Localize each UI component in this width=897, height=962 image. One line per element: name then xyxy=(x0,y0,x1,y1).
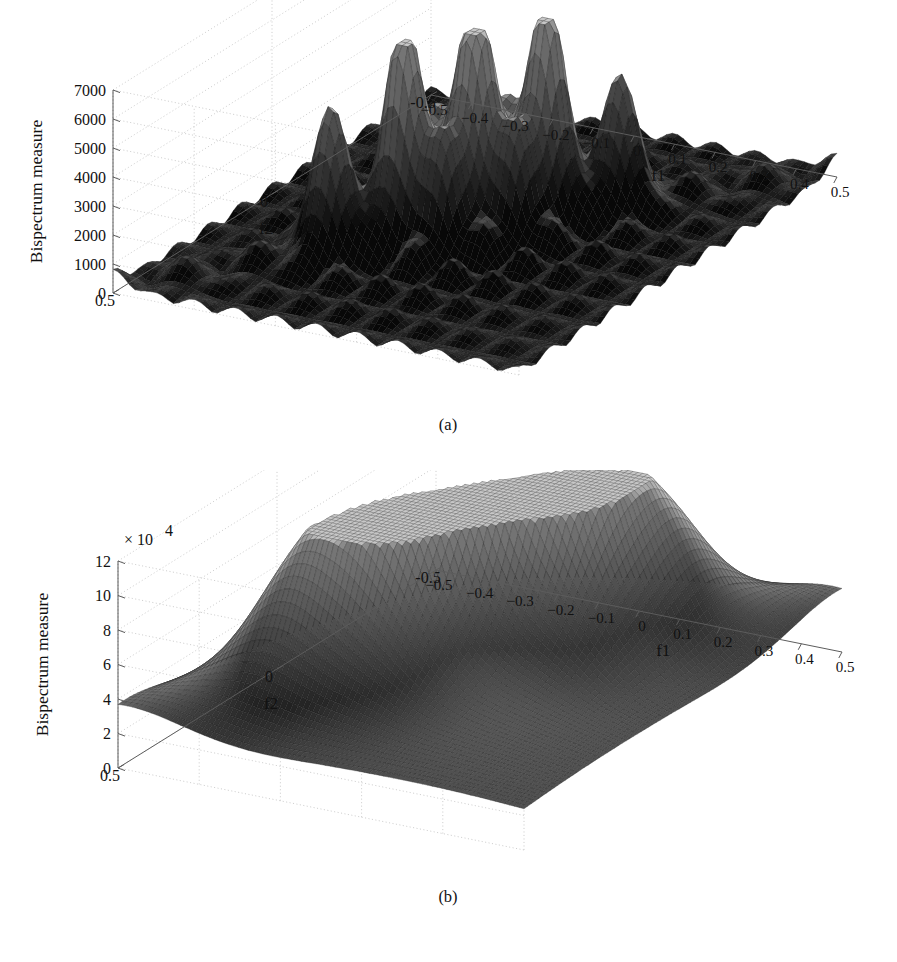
f1-axis-title: f1 xyxy=(651,166,665,185)
f1-axis-title: f1 xyxy=(656,641,670,660)
z-tick-label: 12 xyxy=(95,553,111,570)
f1-tick-label: 0.2 xyxy=(709,159,728,175)
z-axis-title-group: Bispectrum measure xyxy=(26,120,46,264)
f1-tick-label: 0.3 xyxy=(749,168,768,184)
z-tick-label: 7000 xyxy=(74,82,106,99)
f2-tick-label: 0.5 xyxy=(95,292,115,309)
f1-tick-label: −0.5 xyxy=(425,577,452,593)
z-tick-label: 4 xyxy=(103,691,111,708)
f1-tick-label: 0.5 xyxy=(831,184,850,200)
z-tick-label: 8 xyxy=(103,622,111,639)
z-tick-label: 2 xyxy=(103,725,111,742)
f1-tick-label: 0.1 xyxy=(668,151,687,167)
f2-tick-label: 0 xyxy=(260,193,268,210)
z-tick-label: 6 xyxy=(103,656,111,673)
f1-tick-label: 0.1 xyxy=(673,626,692,642)
f1-tick-label: 0 xyxy=(633,143,641,159)
z-axis-title: Bispectrum measure xyxy=(32,593,52,737)
z-tick-label: 1000 xyxy=(74,256,106,273)
z-tick-label: 4000 xyxy=(74,169,106,186)
f2-axis-title: f2 xyxy=(259,219,273,238)
z-axis-title-group: Bispectrum measure xyxy=(32,593,52,737)
f1-tick-label: −0.4 xyxy=(466,585,494,601)
f1-tick-label: 0.5 xyxy=(836,659,855,675)
z-tick-label: 5000 xyxy=(74,140,106,157)
panel-a: 010002000300040005000600070000.50-0.5f2−… xyxy=(0,0,897,470)
f2-tick-label: 0.5 xyxy=(100,767,120,784)
f1-tick-label: −0.3 xyxy=(507,593,534,609)
f1-tick xyxy=(834,177,837,183)
f1-tick-label: −0.2 xyxy=(542,127,569,143)
exponent-label: × 10 xyxy=(124,531,153,548)
axis-exponent: × 104 xyxy=(124,522,173,548)
f1-tick-label: 0.4 xyxy=(795,651,814,667)
z-axis-title: Bispectrum measure xyxy=(26,120,46,264)
f1-tick-label: 0.2 xyxy=(714,634,733,650)
f2-tick-label: 0 xyxy=(265,668,273,685)
f1-tick-label: 0 xyxy=(638,618,646,634)
f1-tick xyxy=(798,644,801,650)
f2-axis-title: f2 xyxy=(264,694,278,713)
f1-tick-label: 0.3 xyxy=(754,643,773,659)
f1-tick-label: −0.3 xyxy=(502,118,529,134)
z-axis: 024681012 xyxy=(95,553,125,777)
f1-tick-label: −0.4 xyxy=(461,110,489,126)
f1-tick xyxy=(839,652,842,658)
z-tick-label: 2000 xyxy=(74,227,106,244)
f1-tick-label: −0.5 xyxy=(420,102,447,118)
z-tick-label: 3000 xyxy=(74,198,106,215)
f1-tick-label: −0.2 xyxy=(547,602,574,618)
f1-tick-label: −0.1 xyxy=(583,135,610,151)
panel-b: 024681012× 1040.50-0.5f2−0.5−0.4−0.3−0.2… xyxy=(0,470,897,940)
surface-plot-a: 010002000300040005000600070000.50-0.5f2−… xyxy=(0,0,897,470)
f1-tick-label: 0.4 xyxy=(790,176,809,192)
z-tick-label: 10 xyxy=(95,587,111,604)
z-tick-label: 6000 xyxy=(74,111,106,128)
panel-caption: (a) xyxy=(439,415,457,434)
panel-caption: (b) xyxy=(438,887,457,906)
surface-plot-b: 024681012× 1040.50-0.5f2−0.5−0.4−0.3−0.2… xyxy=(0,470,897,940)
exponent-superscript: 4 xyxy=(165,522,173,539)
figure-container: 010002000300040005000600070000.50-0.5f2−… xyxy=(0,0,897,962)
f1-tick-label: −0.1 xyxy=(588,610,615,626)
